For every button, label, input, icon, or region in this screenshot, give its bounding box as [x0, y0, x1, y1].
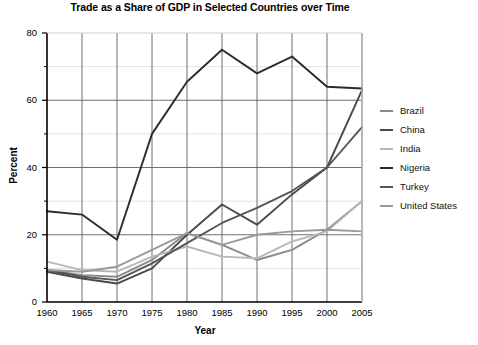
y-tick-label: 40	[11, 162, 37, 173]
x-tick-label: 2000	[307, 307, 347, 318]
legend-item-india[interactable]: India	[380, 139, 457, 158]
legend-label: Nigeria	[400, 162, 430, 173]
data-series-layer	[47, 50, 362, 284]
chart-container: Trade as a Share of GDP in Selected Coun…	[0, 0, 478, 345]
x-tick-label: 1975	[132, 307, 172, 318]
legend-swatch-icon	[380, 186, 393, 188]
legend-item-nigeria[interactable]: Nigeria	[380, 158, 457, 177]
legend-swatch-icon	[380, 110, 393, 112]
legend-label: India	[400, 143, 421, 154]
y-tick-label: 60	[11, 94, 37, 105]
y-tick-label: 0	[11, 296, 37, 307]
series-line-turkey	[47, 127, 362, 280]
gridlines	[47, 33, 362, 302]
x-tick-label: 1990	[237, 307, 277, 318]
series-line-nigeria	[47, 50, 362, 240]
legend-item-china[interactable]: China	[380, 120, 457, 139]
x-tick-label: 1980	[167, 307, 207, 318]
x-tick-label: 1995	[272, 307, 312, 318]
y-tick-label: 20	[11, 229, 37, 240]
legend-swatch-icon	[380, 205, 393, 207]
legend-item-turkey[interactable]: Turkey	[380, 177, 457, 196]
legend-swatch-icon	[380, 167, 393, 169]
legend-swatch-icon	[380, 129, 393, 131]
x-tick-label: 1985	[202, 307, 242, 318]
legend-swatch-icon	[380, 148, 393, 150]
legend-label: Brazil	[400, 105, 424, 116]
legend-label: United States	[400, 200, 457, 211]
x-tick-label: 1965	[62, 307, 102, 318]
legend-item-brazil[interactable]: Brazil	[380, 101, 457, 120]
x-tick-label: 1970	[97, 307, 137, 318]
x-tick-label: 2005	[342, 307, 382, 318]
legend-label: China	[400, 124, 425, 135]
x-tick-label: 1960	[27, 307, 67, 318]
legend-item-united-states[interactable]: United States	[380, 196, 457, 215]
legend-label: Turkey	[400, 181, 429, 192]
y-tick-label: 80	[11, 27, 37, 38]
chart-legend: BrazilChinaIndiaNigeriaTurkeyUnited Stat…	[380, 101, 457, 215]
series-line-china	[47, 90, 362, 283]
